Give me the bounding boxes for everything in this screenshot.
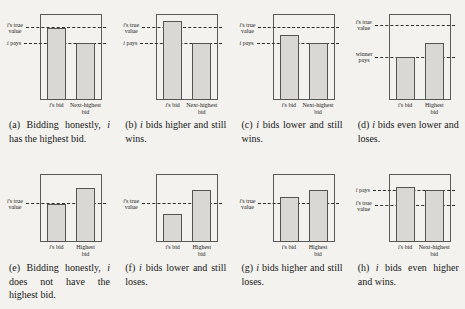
dashed-line <box>258 27 338 28</box>
bar-highest-bid <box>309 190 328 242</box>
x-axis-label-i-s-bid: i's bid <box>49 244 63 251</box>
caption-e: (e) Bidding honestly, i does not have th… <box>9 261 110 302</box>
y-axis-label-i-s-true-value: i's truevalue <box>7 22 23 34</box>
caption-c: (c) i bids lower and still wins. <box>242 118 343 145</box>
bar-next-highest-bid <box>309 43 328 100</box>
x-axis-label-highest-bid: Highestbid <box>192 244 211 257</box>
y-axis-label-i-s-true-value: i's truevalue <box>356 200 372 212</box>
y-axis-label-i-s-true-value: i's truevalue <box>7 198 23 210</box>
x-axis-label-next-highest-bid: Next-highestbid <box>70 102 101 115</box>
y-axis-label-i-s-true-value: i's truevalue <box>123 22 139 34</box>
panel-c: i's truevaluei paysi's bidNext-highestbi… <box>233 0 349 155</box>
bar-highest-bid <box>425 43 444 100</box>
x-axis-label-highest-bid: Highestbid <box>76 244 95 257</box>
y-axis-label-i-s-true-value: i's truevalue <box>240 198 256 210</box>
y-axis-label-i-pays: i pays <box>7 40 21 46</box>
y-axis-label-i-pays: i pays <box>123 40 137 46</box>
y-axis-label-i-pays: i pays <box>240 40 254 46</box>
bar-highest-bid <box>192 190 211 242</box>
panel-h: i paysi's truevaluei's bidNext-highestbi… <box>349 155 465 309</box>
bar-i-s-bid <box>280 197 299 242</box>
bar-i-s-bid <box>396 187 415 242</box>
bar-i-s-bid <box>163 214 182 242</box>
refline-i-s-true-value: i's truevalue <box>356 19 455 32</box>
panel-b: i's truevaluei paysi's bidNext-highestbi… <box>116 0 232 155</box>
bar-i-s-bid <box>47 28 66 100</box>
x-axis-label-i-s-bid: i's bid <box>166 102 180 109</box>
x-axis-label-i-s-bid: i's bid <box>398 244 412 251</box>
y-axis-label-i-s-true-value: i's truevalue <box>356 19 372 31</box>
x-axis-label-i-s-bid: i's bid <box>49 102 63 109</box>
caption-d: (d) i bids even lower and loses. <box>358 118 459 145</box>
x-axis-label-highest-bid: Highestbid <box>309 244 328 257</box>
bar-i-s-bid <box>396 57 415 100</box>
y-axis-label-i-s-true-value: i's truevalue <box>240 22 256 34</box>
panel-g: i's truevaluei's bidHighestbid(g) i bids… <box>233 155 349 309</box>
caption-a: (a) Bidding honestly, i has the highest … <box>9 118 110 145</box>
bar-i-s-bid <box>47 204 66 242</box>
caption-b: (b) i bids higher and still wins. <box>125 118 226 145</box>
auction-bidding-figure: i's truevaluei paysi's bidNext-highestbi… <box>0 0 465 309</box>
panel-d: i's truevaluewinnerpaysi's bidHighestbid… <box>349 0 465 155</box>
bar-i-s-bid <box>280 35 299 100</box>
x-axis-label-next-highest-bid: Next-highestbid <box>186 102 217 115</box>
panel-a: i's truevaluei paysi's bidNext-highestbi… <box>0 0 116 155</box>
dashed-line <box>375 25 455 26</box>
bar-next-highest-bid <box>192 43 211 100</box>
x-axis-label-i-s-bid: i's bid <box>398 102 412 109</box>
x-axis-label-i-s-bid: i's bid <box>282 244 296 251</box>
x-axis-label-next-highest-bid: Next-highestbid <box>303 102 334 115</box>
bar-highest-bid <box>76 188 95 242</box>
bar-next-highest-bid <box>425 190 444 242</box>
y-axis-label-i-s-true-value: i's truevalue <box>123 198 139 210</box>
y-axis-label-i-pays: i pays <box>356 187 370 193</box>
caption-g: (g) i bids higher and still loses. <box>242 261 343 288</box>
x-axis-label-i-s-bid: i's bid <box>282 102 296 109</box>
refline-i-s-true-value: i's truevalue <box>240 21 339 34</box>
panel-e: i's truevaluei's bidHighestbid(e) Biddin… <box>0 155 116 309</box>
figure-panels: i's truevaluei paysi's bidNext-highestbi… <box>0 0 465 309</box>
panel-f: i's truevaluei's bidHighestbid(f) i bids… <box>116 155 232 309</box>
x-axis-label-i-s-bid: i's bid <box>166 244 180 251</box>
bar-i-s-bid <box>163 21 182 100</box>
bar-next-highest-bid <box>76 43 95 100</box>
x-axis-label-next-highest-bid: Next-highestbid <box>419 244 450 257</box>
y-axis-label-winner-pays: winnerpays <box>356 51 373 63</box>
caption-f: (f) i bids lower and still loses. <box>125 261 226 288</box>
x-axis-label-highest-bid: Highestbid <box>425 102 444 115</box>
caption-h: (h) i bids even higher and wins. <box>358 261 459 288</box>
